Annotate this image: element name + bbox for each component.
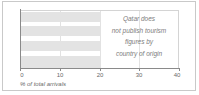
bar-3 xyxy=(21,41,100,51)
annotation-line-1: Qatar does xyxy=(101,13,177,25)
chart-figure: 0 10 20 30 40 % of total arrivals Qatar … xyxy=(0,0,199,95)
tick-label-40: 40 xyxy=(174,71,181,79)
tick-label-0: 0 xyxy=(20,71,23,79)
bar-2 xyxy=(21,26,100,36)
y-axis-line xyxy=(20,9,21,69)
tick-label-30: 30 xyxy=(136,71,143,79)
tick-label-20: 20 xyxy=(97,71,104,79)
x-axis-label: % of total arrivals xyxy=(20,80,66,88)
annotation-line-2: not publish tourism xyxy=(101,25,177,37)
no-data-annotation: Qatar does not publish tourism figures b… xyxy=(101,13,177,59)
bar-4 xyxy=(21,56,100,68)
tick-label-10: 10 xyxy=(57,71,64,79)
annotation-line-4: country of origin xyxy=(101,48,177,60)
annotation-line-3: figures by xyxy=(101,36,177,48)
bar-1 xyxy=(21,12,100,22)
